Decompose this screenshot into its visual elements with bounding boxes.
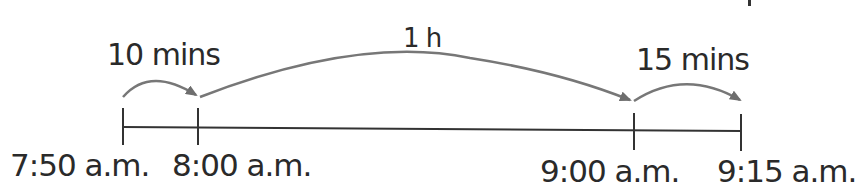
jump-label-1-h: 1 h <box>403 25 441 51</box>
tick-label-750: 7:50 a.m. <box>10 150 149 181</box>
tick-label-900: 9:00 a.m. <box>540 156 679 187</box>
tick-label-915: 9:15 a.m. <box>717 156 856 187</box>
jump-arrow-15-mins <box>634 84 740 101</box>
jump-label-10-mins: 10 mins <box>107 40 220 70</box>
jump-arrow-10-mins <box>123 81 196 97</box>
number-line <box>122 127 741 131</box>
jump-arrow-1-h <box>200 52 630 100</box>
tick-label-800: 8:00 a.m. <box>172 150 311 181</box>
jump-label-15-mins: 15 mins <box>636 45 749 75</box>
